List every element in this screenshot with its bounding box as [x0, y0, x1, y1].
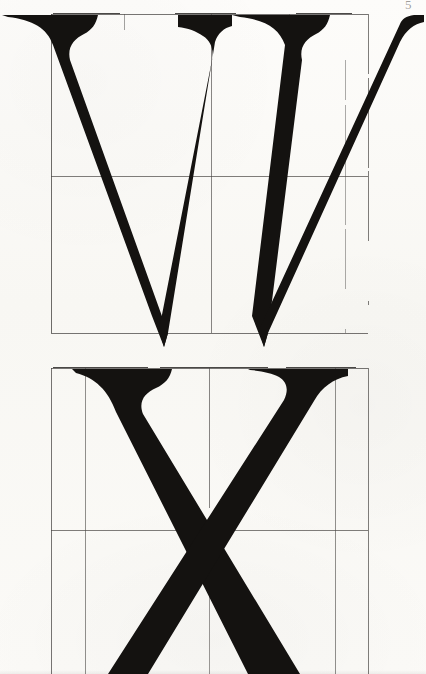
letter-x-glyph	[72, 369, 348, 674]
letterform-plate: 5	[0, 0, 426, 674]
construction-grid-w	[51, 14, 368, 333]
letter-w-glyph	[2, 15, 424, 347]
letter-x-artwork	[0, 352, 426, 674]
specimen-letter-w	[0, 0, 426, 352]
specimen-letter-x	[0, 352, 426, 674]
letter-w-artwork	[0, 0, 426, 352]
